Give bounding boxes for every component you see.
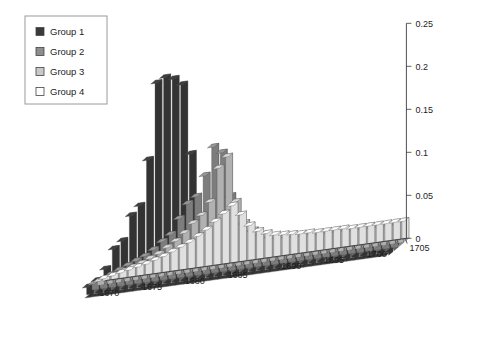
legend-label-3[interactable]: Group 3: [50, 66, 84, 77]
legend-label-4[interactable]: Group 4: [50, 86, 84, 97]
z-tick-label: 0.1: [415, 148, 428, 158]
x-tick-label: 1670: [99, 288, 119, 298]
legend-label-2[interactable]: Group 2: [50, 46, 84, 57]
chart-canvas: 1670167516801685169016951700170500.050.1…: [0, 0, 488, 344]
x-tick-label-right: 1700: [367, 249, 387, 259]
x-tick-label-right: 1695: [324, 255, 344, 265]
legend-swatch-2: [36, 48, 44, 56]
z-tick-label: 0.2: [415, 62, 428, 72]
x-tick-label: 1680: [185, 276, 205, 286]
legend-label-1[interactable]: Group 1: [50, 26, 84, 37]
x-tick-label-right: 1690: [281, 261, 301, 271]
x-tick-label: 1685: [228, 270, 248, 280]
z-tick-label: 0.05: [415, 191, 433, 201]
x-tick-label-right: 1705: [410, 243, 430, 253]
x-tick-label: 1675: [142, 282, 162, 292]
3d-bar-chart: 1670167516801685169016951700170500.050.1…: [0, 0, 488, 344]
z-tick-label: 0.15: [415, 105, 433, 115]
legend-swatch-1: [36, 28, 44, 36]
z-tick-label: 0.25: [415, 19, 433, 29]
z-tick-label: 0: [415, 234, 420, 244]
legend-swatch-3: [36, 68, 44, 76]
legend-swatch-4: [36, 88, 44, 96]
